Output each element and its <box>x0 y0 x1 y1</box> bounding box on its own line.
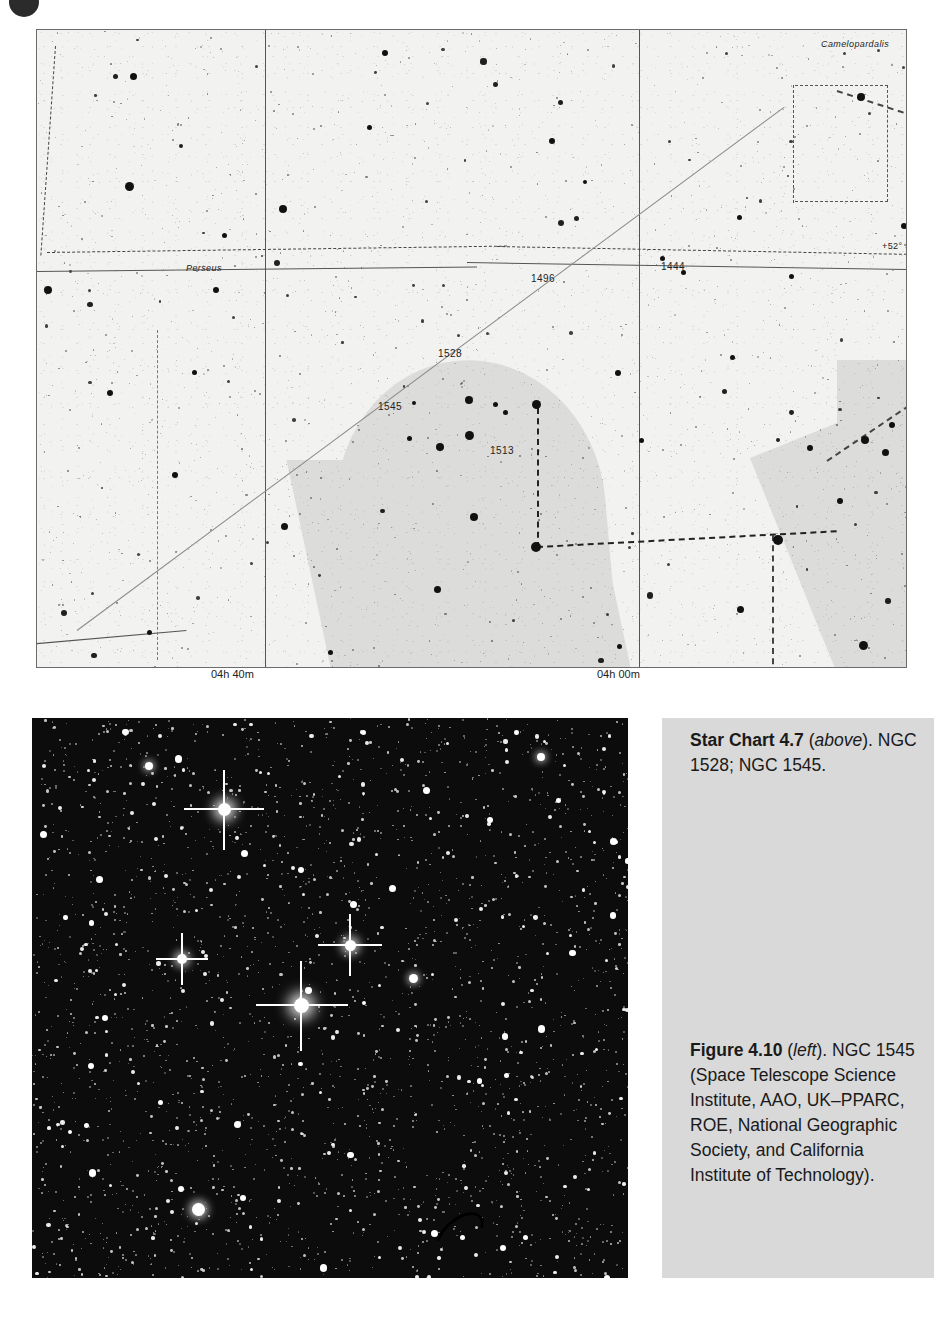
star-dot <box>213 287 219 293</box>
constellation-figure-line-vertical <box>537 408 539 548</box>
constellation-boundary-left <box>40 46 56 256</box>
constellation-boundary-box-right-left-edge <box>793 85 794 203</box>
star-dot <box>617 644 622 649</box>
star-dot <box>837 498 843 504</box>
caption-star-chart-position: above <box>815 730 863 750</box>
diffraction-spike-v <box>223 770 225 850</box>
dec-gridline-right <box>467 262 907 270</box>
page-number-bullet <box>9 0 39 17</box>
label-ngc-1496: 1496 <box>531 273 555 284</box>
star-dot <box>107 390 113 396</box>
ra-gridline-04h00m <box>639 30 640 667</box>
star-dot <box>789 274 794 279</box>
star-dot <box>465 396 473 404</box>
star-dot <box>549 138 555 144</box>
dec-gridline-left <box>37 266 477 272</box>
star-dot <box>531 542 541 552</box>
star-dot <box>125 182 134 191</box>
label-ngc-1444: 1444 <box>661 261 685 272</box>
constellation-boundary-top-right <box>497 246 907 255</box>
star-dot <box>434 586 441 593</box>
star-dot <box>493 402 498 407</box>
caption-figure-title: Figure 4.10 <box>690 1040 782 1060</box>
label-ngc-1528: 1528 <box>438 348 462 359</box>
dec-gridline-lower <box>36 630 186 645</box>
constellation-figure-line-right-vertical <box>772 535 774 668</box>
ra-gridline-04h40m <box>265 30 266 667</box>
star-dot <box>882 449 889 456</box>
star-dot <box>407 436 412 441</box>
star-chart-panel: Camelopardalis Perseus +52° 30' 1496 144… <box>36 29 907 668</box>
constellation-boundary-left-lower <box>157 330 158 660</box>
caption-star-chart: Star Chart 4.7 (above). NGC 1528; NGC 15… <box>690 728 920 778</box>
star-dot <box>737 606 744 613</box>
star-dot <box>583 180 587 184</box>
star-dot <box>279 205 287 213</box>
milky-way-band-main-lower <box>286 460 637 668</box>
caption-star-chart-title: Star Chart 4.7 <box>690 730 804 750</box>
star-dot <box>773 535 783 545</box>
star-dot <box>172 472 178 478</box>
star-dot <box>412 401 416 405</box>
star-dot <box>737 215 742 220</box>
star-dot <box>328 650 333 655</box>
caption-star-chart-open: ( <box>804 730 815 750</box>
star-dot <box>367 125 372 130</box>
star-dot <box>281 523 288 530</box>
star-dot <box>470 513 478 521</box>
star-dot <box>639 438 644 443</box>
plate-defect-arc <box>428 1204 491 1265</box>
star-dot <box>615 370 621 376</box>
star-dot <box>807 445 813 451</box>
ra-tick-label-04h40m: 04h 40m <box>211 668 254 680</box>
star-chart-sky: Camelopardalis Perseus +52° 30' 1496 144… <box>37 30 906 667</box>
bright-star-lower <box>192 1203 205 1216</box>
star-dot <box>382 50 388 56</box>
star-dot <box>857 93 865 101</box>
caption-figure: Figure 4.10 (left). NGC 1545 (Space Tele… <box>690 1038 920 1188</box>
star-dot <box>147 630 152 635</box>
bright-star-upper-right <box>537 753 545 761</box>
star-dot <box>532 400 541 409</box>
star-dot <box>192 370 197 375</box>
label-ngc-1513: 1513 <box>490 445 514 456</box>
star-dot <box>861 436 869 444</box>
ra-tick-label-04h00m: 04h 00m <box>597 668 640 680</box>
star-dot <box>859 641 868 650</box>
caption-figure-open: ( <box>782 1040 793 1060</box>
star-dot <box>730 355 735 360</box>
label-ngc-1545: 1545 <box>378 401 402 412</box>
label-camelopardalis: Camelopardalis <box>821 39 889 49</box>
caption-figure-position: left <box>793 1040 816 1060</box>
label-declination: +52° 30' <box>882 241 907 251</box>
constellation-boundary-top <box>47 246 507 253</box>
star-dot <box>130 73 137 80</box>
diffraction-spike-v <box>300 961 302 1051</box>
star-dot <box>44 286 52 294</box>
star-dot <box>901 223 907 229</box>
star-dot <box>222 233 227 238</box>
diffraction-spike-v <box>181 933 183 985</box>
star-dot-ngc1545 <box>436 443 444 451</box>
figure-4-10-photograph <box>32 718 628 1278</box>
label-perseus: Perseus <box>186 263 222 273</box>
caption-figure-body: ). NGC 1545 (Space Telescope Science Ins… <box>690 1040 915 1185</box>
star-dot-ngc1528 <box>465 431 474 440</box>
milky-way-band-right-edge <box>837 360 907 668</box>
star-dot <box>503 410 508 415</box>
star-dot <box>889 422 895 428</box>
